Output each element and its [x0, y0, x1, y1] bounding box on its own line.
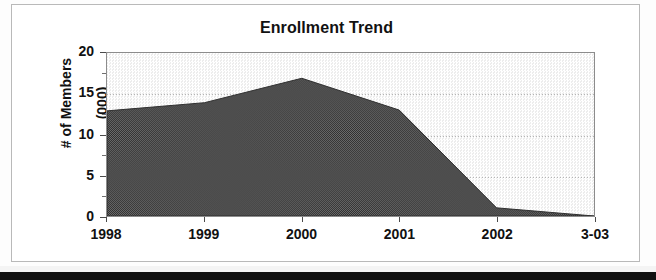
- y-tick-label-10: 10: [60, 126, 94, 142]
- x-tick-label-2001: 2001: [364, 226, 434, 242]
- y-tick-label-5: 5: [60, 167, 94, 183]
- area-series: [107, 53, 594, 216]
- x-tick-label-2000: 2000: [267, 226, 337, 242]
- x-tick-2000: [302, 217, 303, 222]
- x-tick-1998: [106, 217, 107, 222]
- y-tick-15: [100, 93, 106, 94]
- y-tick-label-20: 20: [60, 43, 94, 59]
- plot-area: [106, 52, 595, 217]
- chart-frame: Enrollment Trend # of Members (000) 0510…: [11, 4, 640, 262]
- y-minor-tick-12.5: [102, 114, 106, 115]
- scan-edge-band: [0, 272, 656, 280]
- x-tick-3-03: [595, 217, 596, 222]
- area-path: [107, 78, 594, 216]
- x-tick-label-1999: 1999: [169, 226, 239, 242]
- y-minor-tick-7.5: [102, 155, 106, 156]
- x-tick-2002: [497, 217, 498, 222]
- y-minor-tick-17.5: [102, 73, 106, 74]
- y-tick-5: [100, 176, 106, 177]
- x-tick-1999: [204, 217, 205, 222]
- y-tick-label-0: 0: [60, 208, 94, 224]
- y-tick-label-15: 15: [60, 84, 94, 100]
- x-tick-label-2002: 2002: [462, 226, 532, 242]
- y-minor-tick-2.5: [102, 196, 106, 197]
- x-tick-label-1998: 1998: [71, 226, 141, 242]
- y-tick-10: [100, 135, 106, 136]
- y-tick-20: [100, 52, 106, 53]
- x-tick-2001: [399, 217, 400, 222]
- x-tick-label-3-03: 3-03: [560, 226, 630, 242]
- chart-title: Enrollment Trend: [12, 19, 641, 37]
